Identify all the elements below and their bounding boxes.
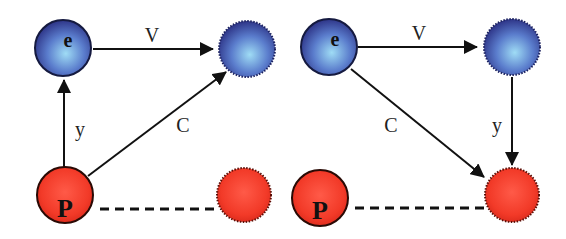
left-node-p-label: P [57, 194, 73, 223]
right-node-e: e [301, 19, 357, 75]
right-edge-c-label: C [384, 114, 397, 136]
left-edge-v-label: V [145, 24, 160, 46]
left-edge-y-label: y [75, 118, 85, 141]
right-edge-c-arrow [351, 69, 484, 177]
diagram-canvas: V y C e P V C y e [0, 0, 566, 239]
right-node-target-blue [484, 19, 540, 75]
left-node-target-red [217, 168, 271, 222]
left-node-p: P [37, 167, 93, 223]
right-edge-y-label: y [492, 114, 502, 137]
left-edge-c-label: C [176, 114, 189, 136]
right-node-e-label: e [331, 28, 340, 50]
right-edge-v-label: V [412, 22, 427, 44]
left-node-e: e [35, 20, 91, 76]
left-panel: V y C e P [35, 20, 275, 223]
right-node-p: P [292, 170, 348, 226]
left-edge-c-arrow [88, 72, 226, 176]
right-panel: V C y e P [292, 19, 540, 226]
right-node-target-red [485, 168, 539, 222]
right-node-p-label: P [312, 196, 328, 225]
left-node-target-blue [219, 21, 275, 77]
left-node-e-label: e [64, 29, 73, 51]
